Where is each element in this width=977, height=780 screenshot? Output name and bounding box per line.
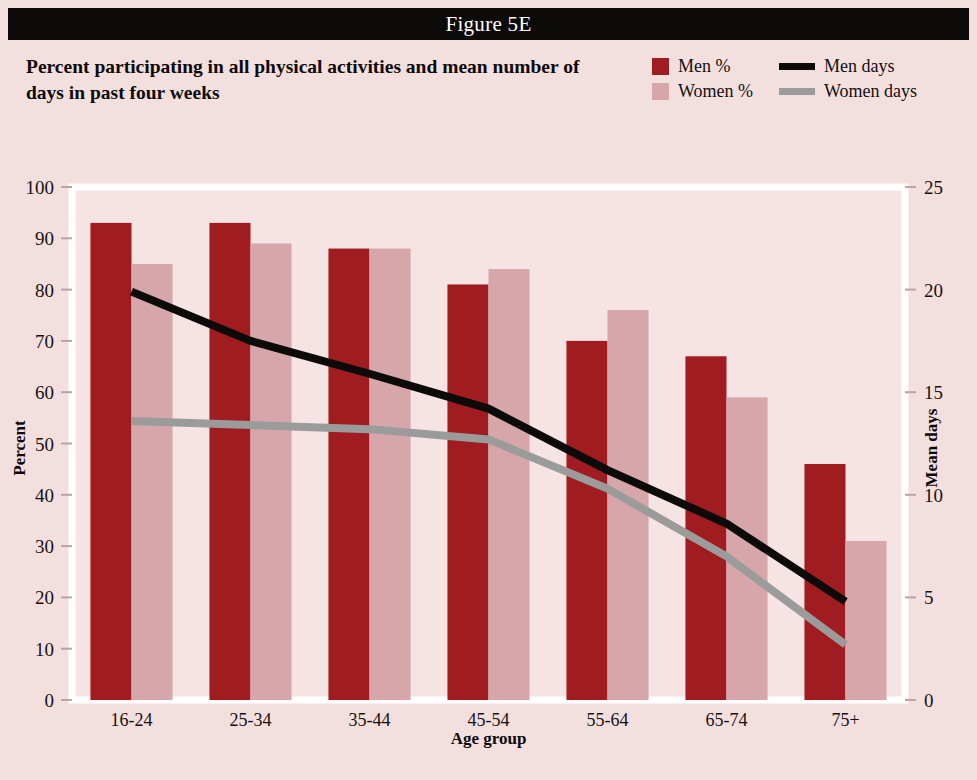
y-tick-label-right: 0 <box>924 690 934 711</box>
x-tick-label-16-24: 16-24 <box>111 710 153 728</box>
x-tick-label-55-64: 55-64 <box>587 710 629 728</box>
y-tick-label-left: 40 <box>35 485 54 506</box>
y-tick-label-left: 0 <box>45 690 55 711</box>
y-tick-label-left: 60 <box>35 382 54 403</box>
legend-swatch-women-percent <box>652 83 669 100</box>
bar-men--45-54 <box>447 284 488 700</box>
figure-banner: Figure 5E <box>8 8 969 40</box>
y-tick-label-left: 100 <box>26 177 55 198</box>
y-tick-label-right: 20 <box>924 280 943 301</box>
x-tick-label-75+: 75+ <box>831 710 859 728</box>
legend-line-women-days <box>779 88 815 95</box>
y-tick-label-right: 25 <box>924 177 943 198</box>
legend-line-men-days <box>779 63 815 70</box>
y-tick-label-left: 20 <box>35 587 54 608</box>
legend-label-men-days: Men days <box>824 56 895 77</box>
y-tick-label-right: 15 <box>924 382 943 403</box>
legend-item-men-days: Men days <box>779 56 917 77</box>
bar-women--16-24 <box>132 264 173 700</box>
y-tick-label-left: 10 <box>35 639 54 660</box>
legend-swatch-men-percent <box>652 58 669 75</box>
figure-label: Figure 5E <box>445 12 531 37</box>
bar-men--25-34 <box>209 223 250 700</box>
x-tick-label-45-54: 45-54 <box>468 710 510 728</box>
y-tick-label-left: 80 <box>35 280 54 301</box>
legend-item-men-percent: Men % <box>652 56 753 77</box>
legend-label-women-percent: Women % <box>678 81 753 102</box>
legend-label-men-percent: Men % <box>678 56 731 77</box>
y-tick-label-right: 10 <box>924 485 943 506</box>
bar-women--45-54 <box>489 269 530 700</box>
legend-label-women-days: Women days <box>824 81 917 102</box>
bar-women--35-44 <box>370 249 411 700</box>
y-tick-label-left: 30 <box>35 536 54 557</box>
x-tick-label-25-34: 25-34 <box>230 710 272 728</box>
legend-item-women-percent: Women % <box>652 81 753 102</box>
y-tick-label-left: 90 <box>35 228 54 249</box>
legend-item-women-days: Women days <box>779 81 917 102</box>
chart-plot: 0102030405060708090100051015202516-2425-… <box>0 128 977 728</box>
x-tick-label-65-74: 65-74 <box>706 710 748 728</box>
y-tick-label-right: 5 <box>924 587 934 608</box>
x-tick-label-35-44: 35-44 <box>349 710 391 728</box>
x-axis-title: Age group <box>0 729 977 749</box>
chart-area: Percent Mean days Age group 010203040506… <box>0 128 977 780</box>
chart-title: Percent participating in all physical ac… <box>26 54 616 106</box>
y-tick-label-left: 70 <box>35 331 54 352</box>
bar-men--35-44 <box>328 249 369 700</box>
chart-legend: Men % Men days Women % Women days <box>652 56 917 102</box>
y-tick-label-left: 50 <box>35 434 54 455</box>
bar-men--16-24 <box>90 223 131 700</box>
bar-men--65-74 <box>685 356 726 700</box>
bar-women--75+ <box>846 541 887 700</box>
bar-men--55-64 <box>566 341 607 700</box>
bar-women--25-34 <box>251 243 292 700</box>
chart-header: Percent participating in all physical ac… <box>0 46 977 128</box>
